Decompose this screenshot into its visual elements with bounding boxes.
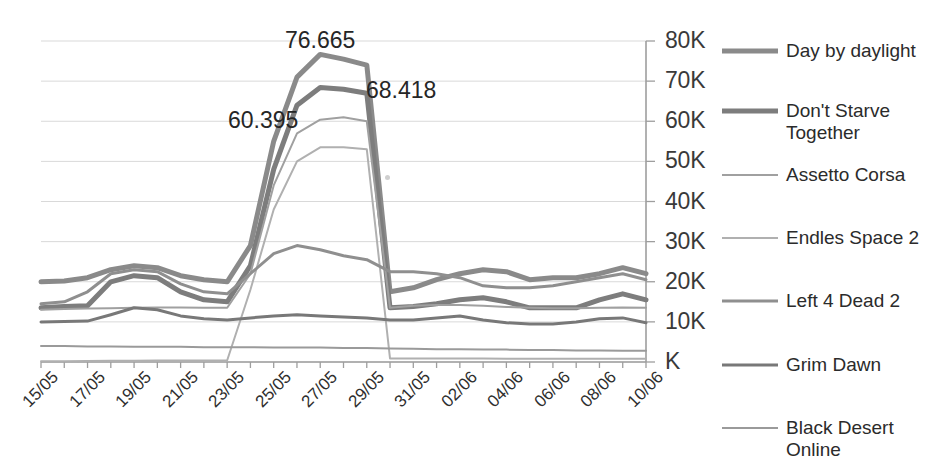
legend-label: Endles Space 2 — [786, 227, 919, 249]
series-line-black-desert-online — [41, 346, 646, 351]
legend-swatch-icon — [722, 417, 778, 439]
legend-label: Grim Dawn — [786, 354, 881, 376]
legend-swatch-icon — [722, 100, 778, 122]
y-tick-label: 20K — [665, 270, 721, 293]
legend-label: Assetto Corsa — [786, 164, 905, 186]
legend-swatch-icon — [722, 40, 778, 62]
legend-item-day-by-daylight[interactable]: Day by daylight — [722, 40, 916, 62]
x-tick-label: 23/05 — [205, 368, 247, 410]
legend-item-assetto-corsa[interactable]: Assetto Corsa — [722, 164, 905, 186]
legend-label: Don't Starve Together — [786, 100, 946, 144]
data-label: 76.665 — [285, 28, 355, 52]
legend-swatch-icon — [722, 227, 778, 249]
legend-item-endles-space-2[interactable]: Endles Space 2 — [722, 227, 919, 249]
legend-item-grim-dawn[interactable]: Grim Dawn — [722, 354, 881, 376]
y-tick-label: 50K — [665, 149, 721, 172]
chart-legend: Day by daylightDon't Starve TogetherAsse… — [722, 22, 948, 462]
y-axis-tick-labels: K10K20K30K40K50K60K70K80K — [661, 0, 721, 471]
x-tick-label: 29/05 — [345, 368, 387, 410]
x-tick-label: 21/05 — [159, 368, 201, 410]
legend-label: Day by daylight — [786, 40, 916, 62]
x-tick-label: 19/05 — [112, 368, 154, 410]
y-tick-label: K — [665, 350, 721, 373]
legend-item-black-desert-online[interactable]: Black Desert Online — [722, 417, 946, 461]
x-tick-label: 02/06 — [438, 368, 480, 410]
chart-container: K10K20K30K40K50K60K70K80K 15/0517/0519/0… — [0, 0, 948, 471]
y-tick-label: 40K — [665, 190, 721, 213]
legend-label: Black Desert Online — [786, 417, 946, 461]
data-label: 60.395 — [228, 108, 298, 132]
y-tick-label: 60K — [665, 109, 721, 132]
legend-label: Left 4 Dead 2 — [786, 290, 900, 312]
series-line-assetto-corsa — [41, 117, 646, 310]
y-tick-label: 80K — [665, 29, 721, 52]
y-tick-label: 30K — [665, 230, 721, 253]
series-line-don-t-starve-together — [41, 88, 646, 308]
x-tick-label: 04/06 — [485, 368, 527, 410]
x-tick-label: 06/06 — [531, 368, 573, 410]
legend-swatch-icon — [722, 354, 778, 376]
x-tick-label: 25/05 — [252, 368, 294, 410]
legend-item-left-4-dead-2[interactable]: Left 4 Dead 2 — [722, 290, 900, 312]
x-tick-label: 31/05 — [392, 368, 434, 410]
speck-artifact — [385, 175, 390, 180]
data-label: 68.418 — [366, 78, 436, 102]
y-tick-label: 70K — [665, 69, 721, 92]
x-tick-label: 17/05 — [66, 368, 108, 410]
y-tick-label: 10K — [665, 310, 721, 333]
legend-swatch-icon — [722, 164, 778, 186]
x-tick-label: 27/05 — [299, 368, 341, 410]
legend-swatch-icon — [722, 290, 778, 312]
x-tick-label: 08/06 — [578, 368, 620, 410]
legend-item-don-t-starve-together[interactable]: Don't Starve Together — [722, 100, 946, 144]
x-tick-label: 15/05 — [19, 368, 61, 410]
x-axis-tick-labels: 15/0517/0519/0521/0523/0525/0527/0529/05… — [0, 363, 660, 468]
